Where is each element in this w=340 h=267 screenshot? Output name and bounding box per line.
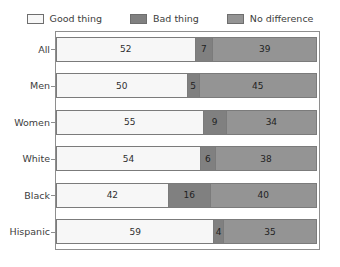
category-label-men: Men xyxy=(0,80,50,91)
stacked-bar: 59435 xyxy=(56,219,319,244)
legend-swatch-bad-thing xyxy=(130,14,147,24)
bar-segment-value: 6 xyxy=(205,154,211,164)
axis-tick xyxy=(51,86,55,87)
bar-segment-bad-thing[interactable]: 6 xyxy=(200,146,216,171)
bar-segment-value: 16 xyxy=(183,190,194,200)
bar-segment-value: 5 xyxy=(190,81,196,91)
axis-tick xyxy=(51,49,55,50)
bar-row: Men50545 xyxy=(0,68,340,105)
chart-legend: Good thing Bad thing No difference xyxy=(0,11,340,27)
category-label-white: White xyxy=(0,153,50,164)
legend-swatch-good-thing xyxy=(27,14,44,24)
bar-segment-value: 39 xyxy=(259,44,270,54)
bar-segment-good-thing[interactable]: 54 xyxy=(56,146,201,171)
legend-entry-no-difference: No difference xyxy=(227,14,314,24)
bar-row: Black421640 xyxy=(0,177,340,214)
bar-segment-no-difference[interactable]: 45 xyxy=(199,73,317,98)
bar-segment-good-thing[interactable]: 52 xyxy=(56,37,196,62)
category-label-all: All xyxy=(0,44,50,55)
legend-label-good-thing: Good thing xyxy=(50,14,102,24)
bar-segment-value: 59 xyxy=(129,227,140,237)
bar-segment-no-difference[interactable]: 40 xyxy=(210,183,317,208)
bar-segment-bad-thing[interactable]: 9 xyxy=(203,110,227,135)
bar-segment-good-thing[interactable]: 55 xyxy=(56,110,204,135)
axis-tick xyxy=(51,195,55,196)
bar-row: Hispanic59435 xyxy=(0,214,340,251)
bar-segment-value: 45 xyxy=(252,81,263,91)
bar-segment-value: 38 xyxy=(260,154,271,164)
bar-row: Women55934 xyxy=(0,104,340,141)
stacked-bar: 52739 xyxy=(56,37,319,62)
bar-segment-good-thing[interactable]: 42 xyxy=(56,183,169,208)
bar-segment-value: 35 xyxy=(264,227,275,237)
bar-segment-value: 40 xyxy=(258,190,269,200)
category-label-hispanic: Hispanic xyxy=(0,226,50,237)
bar-segment-value: 55 xyxy=(124,117,135,127)
bar-row: White54638 xyxy=(0,141,340,178)
axis-tick xyxy=(51,122,55,123)
category-label-women: Women xyxy=(0,117,50,128)
stacked-bar-chart-figure: Good thing Bad thing No difference All52… xyxy=(0,0,340,267)
bar-segment-value: 52 xyxy=(120,44,131,54)
legend-entry-good-thing: Good thing xyxy=(27,14,102,24)
legend-swatch-no-difference xyxy=(227,14,244,24)
bar-segment-value: 7 xyxy=(201,44,207,54)
bar-segment-value: 4 xyxy=(216,227,222,237)
category-label-black: Black xyxy=(0,190,50,201)
bar-segment-bad-thing[interactable]: 7 xyxy=(195,37,214,62)
bar-segment-no-difference[interactable]: 38 xyxy=(215,146,317,171)
stacked-bar: 54638 xyxy=(56,146,319,171)
legend-label-bad-thing: Bad thing xyxy=(153,14,199,24)
bar-segment-good-thing[interactable]: 59 xyxy=(56,219,214,244)
legend-label-no-difference: No difference xyxy=(250,14,314,24)
stacked-bar: 50545 xyxy=(56,73,319,98)
bar-segment-value: 42 xyxy=(107,190,118,200)
bar-segment-value: 54 xyxy=(123,154,134,164)
bar-segment-no-difference[interactable]: 39 xyxy=(212,37,317,62)
bar-segment-value: 34 xyxy=(266,117,277,127)
bar-segment-no-difference[interactable]: 35 xyxy=(223,219,317,244)
axis-tick xyxy=(51,232,55,233)
axis-tick xyxy=(51,159,55,160)
bar-segment-value: 50 xyxy=(116,81,127,91)
bar-segment-value: 9 xyxy=(212,117,218,127)
bar-segment-bad-thing[interactable]: 16 xyxy=(168,183,211,208)
stacked-bar: 421640 xyxy=(56,183,319,208)
legend-entry-bad-thing: Bad thing xyxy=(130,14,199,24)
stacked-bar: 55934 xyxy=(56,110,319,135)
bar-rows-container: All52739Men50545Women55934White54638Blac… xyxy=(0,31,340,250)
bar-segment-good-thing[interactable]: 50 xyxy=(56,73,188,98)
bar-row: All52739 xyxy=(0,31,340,68)
bar-segment-no-difference[interactable]: 34 xyxy=(226,110,317,135)
